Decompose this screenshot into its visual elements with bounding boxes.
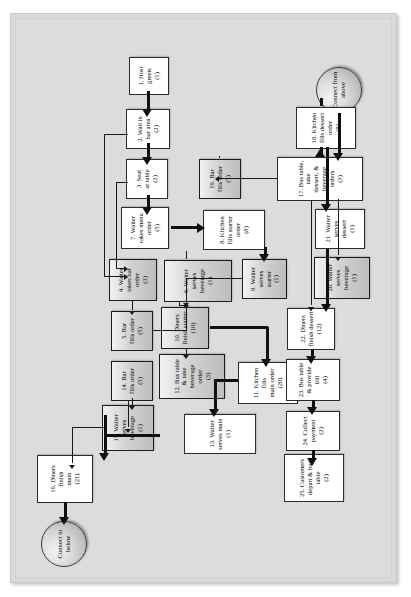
edge-11-13-h <box>214 380 217 410</box>
node-text-line: (1) <box>153 66 161 85</box>
node-14[interactable]: 14. Bar fills order (5) <box>111 361 153 401</box>
node-3[interactable]: 3. Seat at table (2) <box>126 159 168 199</box>
node-text-line: (1) <box>350 260 358 296</box>
arrowhead-10-12 <box>183 355 189 359</box>
node-text-line: serves dessert <box>332 212 348 246</box>
edge-12-14 <box>132 398 133 405</box>
edge-3-4-seg-h <box>116 183 117 269</box>
edge-terminator-17 <box>338 113 341 155</box>
node-24[interactable]: 24. Collect payment (2) <box>286 411 340 451</box>
node-text-line: (3) <box>141 268 149 292</box>
edge-21-22-h <box>326 249 329 305</box>
edge-4-5 <box>132 300 133 310</box>
edge-6-10-h2 <box>179 302 180 306</box>
node-16[interactable]: 16. Diners finish main (21) <box>37 455 93 503</box>
edge-2-3 <box>147 143 150 157</box>
node-text-line: bar area <box>144 116 152 142</box>
node-text-line: beverage order <box>188 357 204 396</box>
edge-2-4-seg-v2 <box>104 276 126 277</box>
edge-3-4-seg-v <box>116 182 128 183</box>
node-text-line: (5) <box>224 166 232 192</box>
node-10[interactable]: 10. Diners finish starter (10) <box>161 307 209 349</box>
node-text-line: 14. Bar <box>120 368 128 394</box>
arrowhead-23-24 <box>307 407 317 415</box>
node-text-line: at table <box>143 169 151 188</box>
node-9[interactable]: 9. Waiter serves starter (1) <box>242 259 287 299</box>
node-5[interactable]: 5. Bar fills order (5) <box>111 311 153 351</box>
node-text-line: payment <box>309 417 317 446</box>
node-text-line: (1) <box>206 263 214 299</box>
screenshot-root: Connect to below Connect from above 16. <box>0 0 411 597</box>
node-text-line: (2) <box>317 417 325 446</box>
edge-9-10-h2 <box>186 279 187 304</box>
edge-10-11-v <box>210 326 268 329</box>
arrowhead-19-20 <box>335 257 341 261</box>
node-1[interactable]: 1. Host greets (1) <box>129 57 169 95</box>
node-text-line: 15. Waiter <box>112 414 120 441</box>
flowchart-canvas: Connect to below Connect from above 16. <box>16 19 401 587</box>
edge-15-16-v <box>72 427 104 428</box>
node-text-line: 9. Waiter <box>249 262 257 296</box>
node-21[interactable]: 21. Waiter serves dessert (1) <box>315 209 365 249</box>
terminator-line: Connect <box>331 86 338 108</box>
node-19[interactable]: 19. Bar fills order (5) <box>199 159 241 199</box>
node-6[interactable]: 6. Waiter serves beverage (1) <box>164 260 232 302</box>
arrowhead-20-22 <box>308 307 314 311</box>
node-8[interactable]: 8. Kitchen fills starter order (8) <box>203 210 265 250</box>
arrowhead-22-23 <box>306 356 316 364</box>
arrowhead-24-25 <box>307 458 317 466</box>
node-text-line: 10. Diners <box>173 311 181 344</box>
node-20[interactable]: 20. Waiter serves beverage (1) <box>314 257 370 299</box>
arrowhead-10-11 <box>261 359 271 367</box>
node-23[interactable]: 23. Bus table & provide bill (4) <box>286 359 340 401</box>
arrowhead-4-5 <box>129 311 135 315</box>
node-text-line: main order <box>268 365 276 401</box>
arrowhead-7-8 <box>197 223 205 233</box>
node-text-line: finish <box>57 465 65 492</box>
node-text-line: fills order <box>128 318 136 344</box>
node-13[interactable]: 13. Waiter serves main (1) <box>184 414 256 454</box>
node-text-line: 17. Bus table, take <box>297 160 313 198</box>
arrowhead-3-7 <box>142 207 152 215</box>
edge-16-terminator <box>64 502 67 517</box>
node-text-line: 5. Bar <box>120 318 128 344</box>
node-text-line: 1. Host <box>137 66 145 85</box>
node-text-line: & provide bill <box>305 362 321 398</box>
node-18[interactable]: 18. Kitchen fills dessert order (8) <box>296 107 356 149</box>
edge-1-2 <box>147 91 150 109</box>
node-text-line: (5) <box>136 318 144 344</box>
node-text-line: 18. Kitchen <box>310 110 318 146</box>
node-22[interactable]: 22. Diners finish dessert (12) <box>287 308 335 350</box>
edge-2-4-seg-v <box>104 134 128 135</box>
edge-12-16-v <box>106 434 160 437</box>
node-text-line: greets <box>145 66 153 85</box>
edge-17-19-stub <box>219 156 220 158</box>
node-text-line: order <box>133 268 141 292</box>
edge-5-6-h <box>186 251 187 259</box>
arrowhead-16-terminator <box>59 517 69 525</box>
node-text-line: serves <box>120 414 128 441</box>
arrowhead-2-4 <box>124 274 128 280</box>
node-17[interactable]: 17. Bus table, take dessert, & beverage … <box>277 157 363 201</box>
node-text-line: 13. Waiter serves main <box>208 417 224 451</box>
terminator-line: above <box>339 82 346 98</box>
arrowhead-9-10 <box>183 305 189 309</box>
node-text-line: (21) <box>73 465 81 492</box>
arrowhead-18-21 <box>321 204 331 212</box>
node-text-line: (1) <box>136 414 144 441</box>
edge-17-22-h <box>311 201 312 305</box>
arrowhead-11-13 <box>209 409 219 417</box>
node-text-line: (3) <box>336 160 344 198</box>
node-text-line: (4) <box>321 362 329 398</box>
node-text-line: (3) <box>204 357 212 396</box>
node-text-line: 16. Diners <box>49 465 57 492</box>
arrowhead-12-14 <box>129 406 135 410</box>
edge-2-4-seg-h <box>104 135 105 277</box>
arrowhead-terminator-17 <box>333 153 343 161</box>
arrowhead-12-16 <box>99 453 109 461</box>
terminator-connect-to-below[interactable]: Connect to below <box>41 521 87 567</box>
arrowhead-14-15 <box>125 429 131 433</box>
node-text-line: (5) <box>136 368 144 394</box>
arrowhead-2-3 <box>142 157 152 165</box>
node-text-line: 2. Wait in <box>136 116 144 142</box>
